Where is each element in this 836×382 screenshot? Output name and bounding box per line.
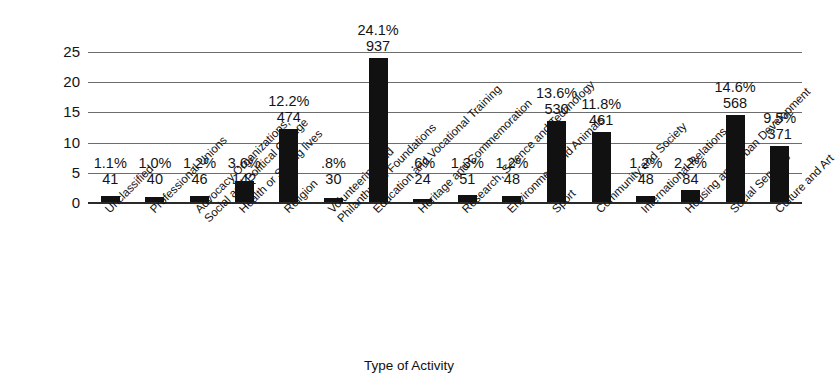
y-axis-tick-10: 10: [46, 135, 80, 150]
gridline-25: [88, 52, 802, 53]
y-axis-tick-15: 15: [46, 104, 80, 119]
value-label-percent-4: 12.2%: [255, 93, 323, 109]
value-label-count-6: 937: [344, 38, 412, 54]
value-label-count-14: 568: [701, 95, 769, 111]
x-axis-category-labels: UnclassifiedProfessional UnionsAdvocacy …: [88, 206, 802, 346]
x-axis-title: Type of Activity: [0, 358, 818, 373]
value-label-14: 14.6%568: [701, 79, 769, 111]
value-label-percent-5: .8%: [299, 155, 367, 171]
gridline-20: [88, 82, 802, 83]
y-axis-tick-5: 5: [46, 165, 80, 180]
y-axis-tick-25: 25: [46, 44, 80, 59]
y-axis-tick-20: 20: [46, 74, 80, 89]
value-label-6: 24.1%937: [344, 22, 412, 54]
value-label-percent-6: 24.1%: [344, 22, 412, 38]
y-axis-tick-0: 0: [46, 195, 80, 210]
gridline-15: [88, 112, 802, 113]
value-label-percent-14: 14.6%: [701, 79, 769, 95]
